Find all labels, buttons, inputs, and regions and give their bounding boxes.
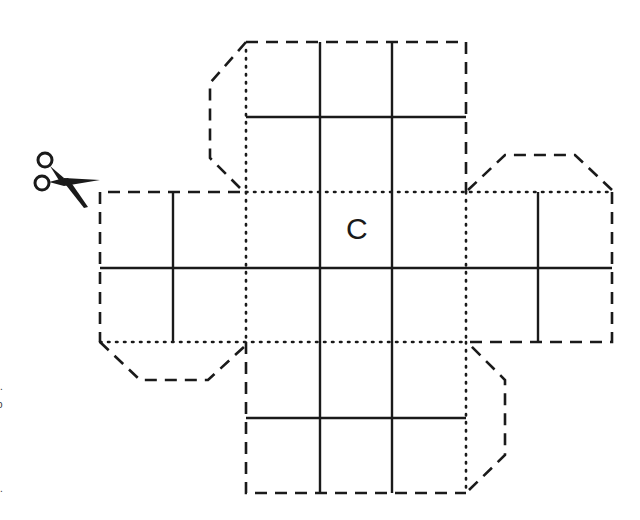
cube-net-diagram	[0, 0, 640, 520]
edge-mark-bottom: .	[0, 484, 3, 494]
scissors-icon	[35, 153, 100, 208]
grid-lines	[100, 42, 612, 493]
edge-mark-top: .	[0, 382, 3, 392]
face-label-c: C	[346, 214, 368, 244]
edge-mark-middle: o	[0, 400, 3, 410]
